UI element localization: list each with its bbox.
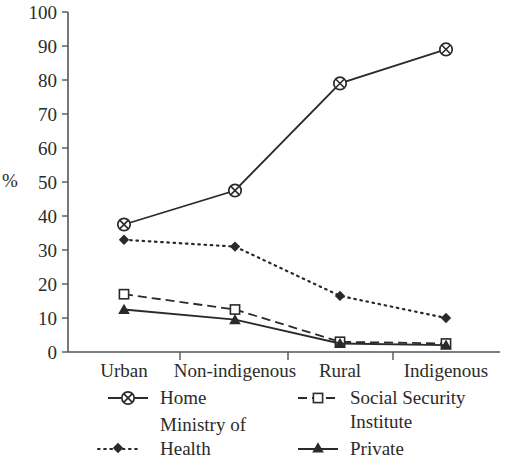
series-social-security-institute: [119, 290, 450, 349]
y-axis-tick-labels: 0102030405060708090100: [29, 2, 58, 363]
data-point-ministry-of-health-1: [230, 241, 240, 251]
circle-cross-marker-icon: [122, 392, 134, 404]
series-line-private: [124, 310, 446, 346]
x-axis-tick-labels: UrbanNon-indigenousRuralIndigenous: [100, 360, 488, 381]
legend-label: Private: [350, 438, 404, 459]
legend-entry-private: Private: [298, 438, 404, 459]
data-point-home-1: [229, 184, 241, 196]
legend-label-line2: Institute: [350, 411, 412, 432]
series-layer: [118, 43, 452, 350]
y-tick-label: 90: [38, 36, 57, 57]
legend-label: Home: [160, 387, 206, 408]
legend-entry-ministry-of: Ministry ofHealth: [98, 414, 247, 459]
y-tick-label: 70: [38, 104, 57, 125]
series-line-ministry-of-health: [124, 240, 446, 318]
data-point-home-3: [440, 43, 452, 55]
legend-entry-home: Home: [108, 387, 206, 408]
x-tick-label-rural: Rural: [319, 360, 361, 381]
y-tick-label: 50: [38, 172, 57, 193]
data-point-private-0: [118, 304, 130, 314]
y-tick-label: 60: [38, 138, 57, 159]
axes-group: [68, 12, 500, 352]
chart-legend: HomeSocial SecurityInstituteMinistry ofH…: [98, 387, 466, 459]
x-tick-label-urban: Urban: [100, 360, 148, 381]
legend-entry-social-security: Social SecurityInstitute: [298, 387, 466, 432]
y-tick-label: 40: [38, 206, 57, 227]
x-tick-label-indigenous: Indigenous: [404, 360, 488, 381]
series-line-social-security-institute: [124, 294, 446, 343]
data-point-home-2: [334, 77, 346, 89]
legend-label-line2: Health: [160, 438, 211, 459]
y-axis-title: %: [2, 170, 18, 191]
y-axis-ticks: [62, 12, 68, 352]
legend-label: Ministry of: [160, 414, 247, 435]
chart-canvas: 0102030405060708090100 % UrbanNon-indige…: [0, 0, 506, 475]
data-point-ministry-of-health-0: [119, 235, 129, 245]
series-ministry-of-health: [119, 235, 451, 324]
series-home: [118, 43, 452, 231]
y-tick-label: 20: [38, 274, 57, 295]
filled-triangle-marker-icon: [312, 442, 324, 452]
data-point-social-security-institute-0: [119, 290, 128, 299]
y-tick-label: 10: [38, 308, 57, 329]
legend-label: Social Security: [350, 387, 466, 408]
line-chart-figure: 0102030405060708090100 % UrbanNon-indige…: [0, 0, 506, 475]
series-line-home: [124, 49, 446, 224]
y-tick-label: 0: [48, 342, 58, 363]
data-point-social-security-institute-1: [230, 305, 239, 314]
y-tick-label: 30: [38, 240, 57, 261]
y-tick-label: 80: [38, 70, 57, 91]
data-point-home-0: [118, 218, 130, 230]
x-axis-ticks: [180, 352, 393, 360]
x-tick-label-non-indigenous: Non-indigenous: [174, 360, 296, 381]
filled-diamond-marker-icon: [113, 443, 123, 453]
y-tick-label: 100: [29, 2, 58, 23]
open-square-marker-icon: [313, 393, 322, 402]
data-point-ministry-of-health-3: [441, 313, 451, 323]
data-point-ministry-of-health-2: [335, 291, 345, 301]
